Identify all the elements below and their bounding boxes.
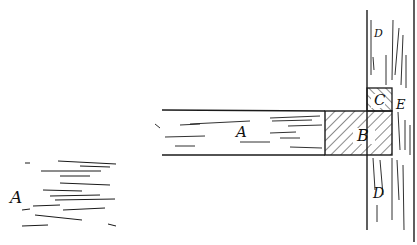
label-a-board: A	[236, 125, 247, 140]
label-b: B	[357, 128, 369, 144]
cross-section-a	[22, 161, 116, 226]
label-d-top: D	[374, 28, 383, 39]
label-c: C	[374, 93, 385, 108]
label-d-bottom: D	[373, 186, 384, 200]
diagram-canvas	[0, 0, 417, 245]
label-a-cross-section: A	[10, 189, 22, 206]
label-e: E	[396, 98, 406, 111]
